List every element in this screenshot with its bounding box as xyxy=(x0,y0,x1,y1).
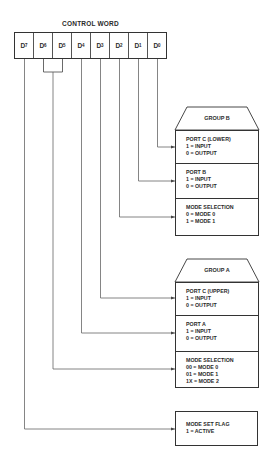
mode-set-flag-box: MODE SET FLAG 1 = ACTIVE xyxy=(175,411,258,446)
group-b: GROUP B PORT C (LOWER) 1 = INPUT 0 = OUT… xyxy=(175,107,259,236)
bit-d5: D5 xyxy=(53,33,72,58)
group-a: GROUP A PORT C (UPPER) 1 = INPUT 0 = OUT… xyxy=(175,259,259,388)
bit-d3: D3 xyxy=(91,33,110,58)
group-b-header: GROUP B xyxy=(175,107,259,130)
section-line: 1 = INPUT xyxy=(186,143,258,150)
bit-d1: D1 xyxy=(129,33,148,58)
section-line: 1 = MODE 1 xyxy=(186,218,258,225)
bit-d4: D4 xyxy=(72,33,91,58)
mode-set-flag-label: MODE SET FLAG xyxy=(186,421,257,428)
bit-d7: D7 xyxy=(15,33,34,58)
section-line: 0 = OUTPUT xyxy=(186,335,258,342)
section-label: MODE SELECTION xyxy=(186,204,258,211)
section-label: PORT A xyxy=(186,321,258,328)
group-a-mode-selection: MODE SELECTION 00 = MODE 0 01 = MODE 1 1… xyxy=(175,352,259,388)
section-label: MODE SELECTION xyxy=(186,357,258,364)
section-line: 01 = MODE 1 xyxy=(186,371,258,378)
group-a-port-a: PORT A 1 = INPUT 0 = OUTPUT xyxy=(175,316,259,352)
section-line: 0 = OUTPUT xyxy=(186,183,258,190)
section-line: 0 = MODE 0 xyxy=(186,211,258,218)
group-a-header: GROUP A xyxy=(175,259,259,282)
bit-d0: D0 xyxy=(148,33,166,58)
group-a-port-c-upper: PORT C (UPPER) 1 = INPUT 0 = OUTPUT xyxy=(175,282,259,316)
section-line: 1 = INPUT xyxy=(186,176,258,183)
mode-set-flag-line: 1 = ACTIVE xyxy=(186,428,257,435)
section-line: 1X = MODE 2 xyxy=(186,378,258,385)
section-line: 0 = OUTPUT xyxy=(186,302,258,309)
section-label: PORT B xyxy=(186,169,258,176)
section-line: 00 = MODE 0 xyxy=(186,364,258,371)
bit-d2: D2 xyxy=(110,33,129,58)
group-b-title: GROUP B xyxy=(175,115,259,121)
group-b-port-c-lower: PORT C (LOWER) 1 = INPUT 0 = OUTPUT xyxy=(175,130,259,164)
bit-d6: D6 xyxy=(34,33,53,58)
section-label: PORT C (LOWER) xyxy=(186,136,258,143)
group-a-title: GROUP A xyxy=(175,267,259,273)
control-word-title: CONTROL WORD xyxy=(14,20,167,27)
section-line: 0 = OUTPUT xyxy=(186,150,258,157)
section-label: PORT C (UPPER) xyxy=(186,288,258,295)
group-b-port-b: PORT B 1 = INPUT 0 = OUTPUT xyxy=(175,164,259,199)
group-b-mode-selection: MODE SELECTION 0 = MODE 0 1 = MODE 1 xyxy=(175,199,259,236)
section-line: 1 = INPUT xyxy=(186,295,258,302)
section-line: 1 = INPUT xyxy=(186,328,258,335)
control-word-register: D7 D6 D5 D4 D3 D2 D1 D0 xyxy=(14,32,167,59)
